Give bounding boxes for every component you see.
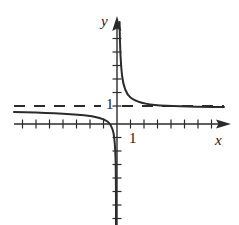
x-axis-tick-label-1: 1 <box>129 131 137 146</box>
curve-left-branch <box>14 112 116 225</box>
plot-canvas <box>0 0 239 225</box>
curve-right-branch <box>120 22 224 107</box>
y-axis-label: y <box>101 14 108 29</box>
math-plot-figure: y x 1 1 <box>0 0 239 225</box>
y-axis-tick-label-1: 1 <box>106 97 114 112</box>
x-axis-label: x <box>215 133 222 148</box>
